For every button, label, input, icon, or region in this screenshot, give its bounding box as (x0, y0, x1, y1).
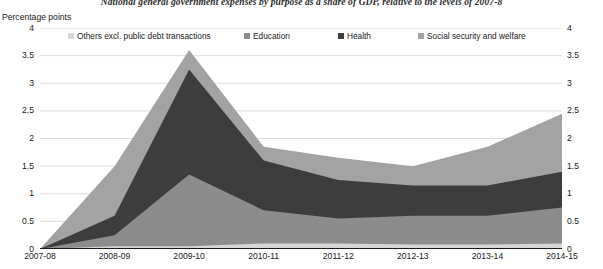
y-tick-label-left-6: 3 (4, 79, 34, 88)
stacked-area-svg (40, 28, 562, 249)
y-tick-label-right-3: 1.5 (567, 162, 597, 171)
y-tick-label-left-5: 2.5 (4, 106, 34, 115)
y-tick-label-left-8: 4 (4, 24, 34, 33)
y-tick-label-right-5: 2.5 (567, 106, 597, 115)
x-tick-label-2: 2009-10 (159, 252, 219, 261)
x-tick-label-6: 2013-14 (457, 252, 517, 261)
x-tick-label-4: 2011-12 (308, 252, 368, 261)
y-tick-label-left-4: 2 (4, 134, 34, 143)
y-tick-label-left-1: 0.5 (4, 217, 34, 226)
x-tick-label-5: 2012-13 (383, 252, 443, 261)
plot-area (40, 28, 562, 249)
y-tick-label-right-6: 3 (567, 79, 597, 88)
y-tick-label-right-1: 0.5 (567, 217, 597, 226)
chart-title: National general government expenses by … (0, 0, 603, 7)
y-tick-label-right-7: 3.5 (567, 51, 597, 60)
y-tick-label-left-3: 1.5 (4, 162, 34, 171)
y-tick-label-left-7: 3.5 (4, 51, 34, 60)
x-tick-label-0: 2007-08 (10, 252, 70, 261)
y-tick-label-right-2: 1 (567, 189, 597, 198)
chart-container: National general government expenses by … (0, 0, 603, 269)
y-tick-label-right-8: 4 (567, 24, 597, 33)
y-tick-label-left-2: 1 (4, 189, 34, 198)
x-tick-label-3: 2010-11 (234, 252, 294, 261)
y-axis-unit-label: Percentage points (2, 12, 71, 22)
x-tick-label-7: 2014-15 (532, 252, 592, 261)
y-tick-label-right-4: 2 (567, 134, 597, 143)
x-tick-label-1: 2008-09 (85, 252, 145, 261)
